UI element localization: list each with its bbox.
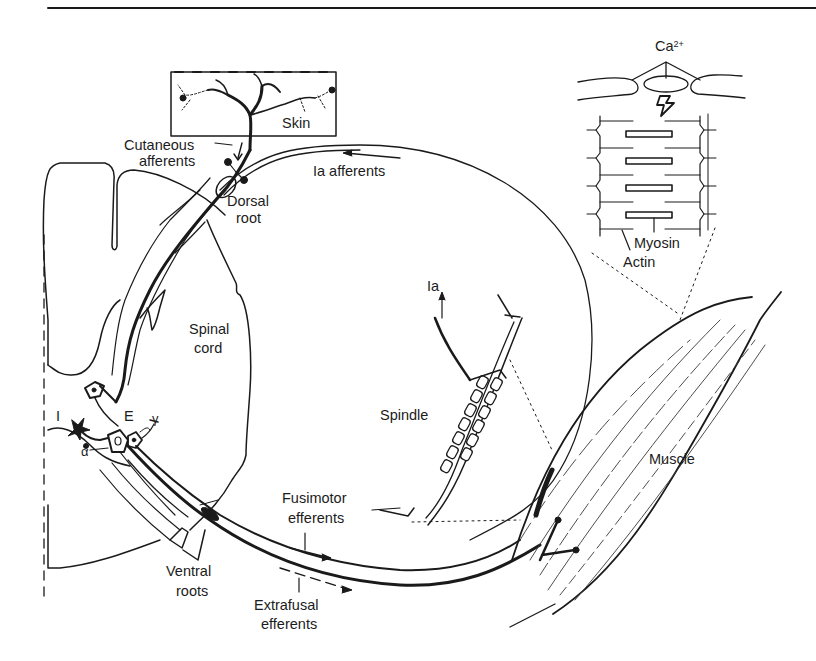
ia-label: Ia [427, 278, 439, 295]
dorsal-root-label-1: Dorsal [227, 193, 269, 210]
extrafusal-efferents-label-2: efferents [261, 616, 317, 633]
fusimotor-efferents-label-1: Fusimotor [282, 490, 346, 507]
calcium-label: Ca2+ [655, 38, 684, 55]
spindle-label: Spindle [380, 407, 428, 424]
skin-label: Skin [282, 115, 310, 132]
ventral-roots-label-2: roots [176, 583, 208, 600]
sarcomere-inset [578, 62, 745, 320]
dorsal-root-pathway [112, 143, 592, 540]
inhibitory-label: I [56, 408, 60, 425]
myosin-label: Myosin [634, 235, 680, 252]
ventral-roots-label-1: Ventral [166, 563, 211, 580]
fusimotor-efferents-label-2: efferents [288, 510, 344, 527]
muscle-label: Muscle [649, 451, 695, 468]
spinal-cord-label-1: Spinal [189, 321, 229, 338]
ia-afferents-label: Ia afferents [313, 163, 385, 180]
dorsal-root-label-2: root [236, 210, 261, 227]
calcium-symbol: Ca [655, 38, 674, 54]
diagram-drawing [0, 0, 816, 661]
extrafusal-efferents-label-1: Extrafusal [254, 597, 318, 614]
spinal-cord-label-2: cord [194, 340, 222, 357]
cutaneous-afferents-label-1: Cutaneous [124, 137, 194, 154]
alpha-motoneuron-label: α [81, 443, 89, 460]
calcium-charge: 2+ [674, 39, 684, 49]
muscle [510, 292, 781, 627]
cutaneous-afferents-label-2: afferents [139, 153, 195, 170]
skin-box [171, 72, 336, 150]
spinal-reflex-diagram: Skin Cutaneous afferents Ia afferents Do… [0, 0, 816, 661]
actin-label: Actin [623, 254, 655, 271]
spinal-cord-outline [43, 163, 250, 600]
excitatory-label: E [124, 408, 134, 425]
spinal-neurons [68, 382, 158, 452]
gamma-motoneuron-label: γ [152, 410, 159, 427]
